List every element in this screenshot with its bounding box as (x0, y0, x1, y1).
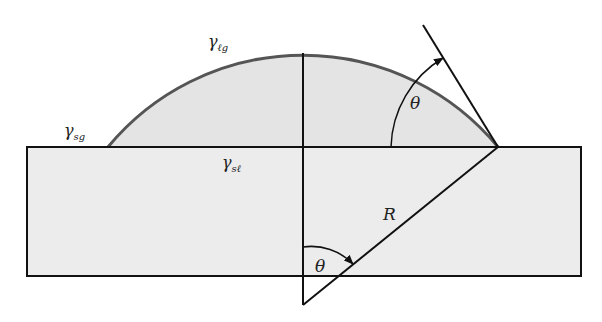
label-theta-center: θ (315, 256, 325, 276)
label-gamma-sg: γsg (64, 121, 85, 142)
label-radius: R (382, 204, 396, 224)
label-gamma-lg: γℓg (208, 32, 228, 53)
label-theta-contact: θ (410, 93, 420, 113)
contact-angle-diagram: γℓg γsg γsℓ θ θ R (0, 0, 602, 322)
